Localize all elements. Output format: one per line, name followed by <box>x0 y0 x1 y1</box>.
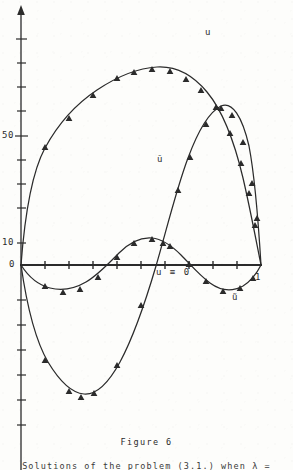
y-axis-tick-label-50: 50 <box>2 131 14 140</box>
curve-u-markers <box>42 66 259 228</box>
figure-caption-body: Solutions of the problem (3.1.) when λ = <box>0 462 293 470</box>
curve-u-label: u <box>205 28 210 37</box>
origin-label-0: 0 <box>9 260 15 269</box>
y-axis-arrow-icon <box>17 5 25 15</box>
figure-page: 50 10 0 1 u ŭ ũ u ≡ 0 Figure 6 Solutions… <box>0 0 293 470</box>
y-axis-tick-label-10: 10 <box>2 238 14 247</box>
curve-u-hat-path <box>21 105 261 394</box>
curve-u-hat-markers <box>42 105 261 400</box>
curve-u-tilde-label: ũ <box>232 293 237 302</box>
figure-plot <box>0 0 293 470</box>
x-axis-tick-label-1: 1 <box>255 273 261 282</box>
y-axis <box>15 5 28 470</box>
figure-caption-title: Figure 6 <box>0 438 293 447</box>
trivial-solution-label: u ≡ 0 <box>156 268 191 277</box>
curve-u-hat-label: ŭ <box>157 155 162 164</box>
x-axis <box>20 261 262 269</box>
curve-u-path <box>21 67 261 265</box>
curve-u-hat <box>21 105 261 400</box>
curve-u <box>21 66 261 265</box>
